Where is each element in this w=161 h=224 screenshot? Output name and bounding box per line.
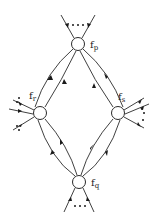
arrow-icon xyxy=(137,122,141,127)
edges-r-q xyxy=(38,119,77,176)
edges-p-r xyxy=(35,49,76,107)
label-fp: fp xyxy=(90,39,99,52)
arrow-icon xyxy=(18,101,22,106)
arrow-icon xyxy=(92,83,96,88)
diagram-svg: fp fr fs fq xyxy=(0,0,161,224)
arrow-icon xyxy=(68,197,72,201)
label-fr: fr xyxy=(29,90,37,103)
node-r xyxy=(34,107,47,120)
external-legs-s xyxy=(124,98,149,128)
node-p xyxy=(72,38,85,51)
edges-p-s xyxy=(80,49,123,107)
node-s xyxy=(112,107,125,120)
arrow-icon xyxy=(18,109,22,113)
label-fs: fs xyxy=(118,91,126,104)
label-fq: fq xyxy=(91,177,100,190)
arrow-icon xyxy=(86,197,90,201)
feynman-diagram: fp fr fs fq xyxy=(0,0,161,224)
external-legs-q xyxy=(64,188,94,212)
external-legs-r xyxy=(9,97,34,131)
node-q xyxy=(73,176,86,189)
external-legs-p xyxy=(61,15,95,38)
arrow-icon xyxy=(62,79,67,84)
edges-s-q xyxy=(81,119,120,176)
